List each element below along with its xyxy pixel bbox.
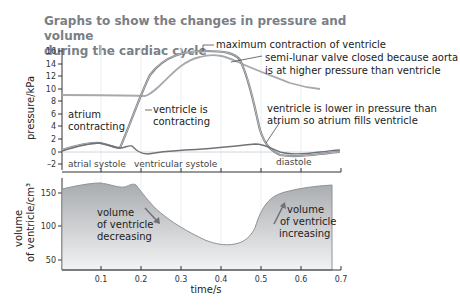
svg-text:8: 8	[51, 97, 56, 106]
annotation-vol-dec-3: decreasing	[97, 231, 152, 242]
time-axis-label: time/s	[190, 284, 221, 295]
phase-diastole: diastole	[276, 157, 312, 167]
svg-text:150: 150	[41, 189, 56, 198]
volume-axis-label-1: volume	[13, 210, 24, 247]
svg-text:0.2: 0.2	[135, 275, 148, 284]
annotation-vol-dec-1: volume	[97, 207, 134, 218]
svg-text:0.4: 0.4	[215, 275, 228, 284]
svg-text:6: 6	[51, 110, 56, 119]
svg-text:10: 10	[46, 85, 56, 94]
annotation-atrium-1: atrium	[68, 109, 101, 120]
pressure-tick-labels: 16 14 12 10 8 6 4 2 0 –2	[46, 47, 56, 169]
svg-text:–2: –2	[47, 160, 56, 169]
annotation-vol-dec-2: of ventricle	[97, 219, 153, 230]
annotation-atrium-2: contracting	[68, 121, 125, 132]
volume-tick-labels: 150 100 50	[41, 189, 56, 265]
svg-text:0.1: 0.1	[95, 275, 108, 284]
svg-text:2: 2	[51, 135, 56, 144]
annotation-semilunar-1: semi-lunar valve closed because aorta	[265, 52, 458, 63]
phase-ventricular-systole: ventricular systole	[134, 159, 218, 169]
annotation-vol-inc-2: of ventricle	[280, 216, 336, 227]
annotation-vol-inc-1: volume	[287, 204, 324, 215]
svg-text:0.3: 0.3	[175, 275, 188, 284]
svg-text:100: 100	[41, 222, 56, 231]
svg-text:12: 12	[46, 72, 56, 81]
annotation-ventricle-1: ventricle is	[153, 104, 208, 115]
annotation-lower-2: atrium so atrium fills ventricle	[267, 115, 418, 126]
svg-text:0.5: 0.5	[255, 275, 268, 284]
cardiac-cycle-chart: 16 14 12 10 8 6 4 2 0 –2 pressure/kPa at…	[0, 0, 460, 305]
annotation-lower-1: ventricle is lower in pressure than	[267, 103, 437, 114]
svg-text:0.6: 0.6	[295, 275, 308, 284]
x-tick-labels: 0.1 0.2 0.3 0.4 0.5 0.6 0.7	[95, 275, 348, 284]
svg-text:14: 14	[46, 60, 56, 69]
annotation-semilunar-2: is at higher pressure than ventricle	[265, 65, 441, 76]
annotation-vol-inc-3: increasing	[279, 228, 330, 239]
svg-text:0: 0	[51, 148, 56, 157]
phase-atrial-systole: atrial systole	[68, 159, 126, 169]
pressure-y-axis	[58, 48, 62, 170]
volume-axis-label-2: of ventricle/cm³	[25, 183, 36, 262]
annotation-ventricle-2: contracting	[153, 116, 210, 127]
pressure-axis-label: pressure/kPa	[25, 76, 36, 140]
volume-y-axis	[58, 178, 62, 270]
svg-text:0.7: 0.7	[335, 275, 348, 284]
annotation-max-contraction: maximum contraction of ventricle	[216, 39, 386, 50]
svg-text:16: 16	[46, 47, 56, 56]
svg-text:4: 4	[51, 122, 56, 131]
svg-text:50: 50	[46, 256, 56, 265]
